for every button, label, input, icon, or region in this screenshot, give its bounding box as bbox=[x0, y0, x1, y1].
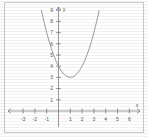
y-tick-label: 4 bbox=[50, 63, 53, 69]
y-tick-label: 3 bbox=[50, 74, 53, 80]
x-tick-label: 5 bbox=[116, 116, 119, 122]
x-tick-label: 1 bbox=[69, 116, 72, 122]
y-axis-label: y bbox=[63, 6, 66, 12]
x-axis bbox=[8, 109, 140, 114]
y-tick-label: 1 bbox=[50, 97, 53, 103]
x-tick-label: -3 bbox=[21, 116, 26, 122]
plot-frame: -3 -2 -1 1 2 3 4 5 6 1 2 3 4 5 6 7 8 9 bbox=[4, 2, 144, 133]
parabola-chart: -3 -2 -1 1 2 3 4 5 6 1 2 3 4 5 6 7 8 9 bbox=[5, 3, 143, 132]
graph-figure: -3 -2 -1 1 2 3 4 5 6 1 2 3 4 5 6 7 8 9 bbox=[0, 0, 148, 137]
x-tick-label: 4 bbox=[104, 116, 107, 122]
x-tick-label: 3 bbox=[93, 116, 96, 122]
x-tick-label: 6 bbox=[128, 116, 131, 122]
x-axis-label: x bbox=[136, 102, 139, 108]
y-tick-labels: 1 2 3 4 5 6 7 8 9 bbox=[50, 7, 53, 103]
x-tick-label: -1 bbox=[44, 116, 49, 122]
y-tick-label: 2 bbox=[50, 85, 53, 91]
x-tick-label: -2 bbox=[33, 116, 38, 122]
y-tick-label: 8 bbox=[50, 18, 53, 24]
x-tick-labels: -3 -2 -1 1 2 3 4 5 6 bbox=[21, 116, 131, 122]
y-tick-label: 9 bbox=[50, 7, 53, 13]
x-tick-label: 2 bbox=[81, 116, 84, 122]
y-tick-label: 7 bbox=[50, 29, 53, 35]
